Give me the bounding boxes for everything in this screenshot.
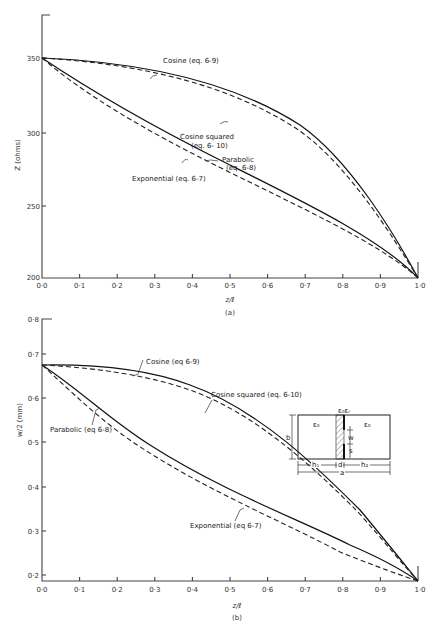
y-tick-label: 0·5: [28, 439, 39, 447]
label-cosine-a: Cosine (eq. 6-9): [163, 57, 219, 65]
label-parabolic-a-2: (eq. 6-8): [226, 164, 256, 172]
axes-b: [42, 319, 418, 581]
x-tick-label: 0·0: [36, 586, 47, 594]
x-tick-label: 0·8: [337, 282, 348, 290]
label-b: b: [286, 434, 291, 442]
label-eps-slab: ε₀εᵣ: [338, 407, 350, 415]
inset-cross-section: ε₀εᵣ ε₀ ε₀ b w s h₁ d h₂: [286, 407, 390, 477]
x-axis-title-a: z/ℓ: [225, 296, 235, 304]
label-s: s: [349, 447, 353, 455]
y-ticks-b: 0·8 0·7 0·6 0·5 0·4 0·3 0·2: [28, 316, 46, 580]
figure: 350 300 250 200 0·0 0·1 0·2 0·3 0·4 0·5 …: [0, 0, 432, 626]
dielectric-slab: [336, 415, 344, 459]
x-tick-label: 0·3: [149, 586, 160, 594]
label-cos-squared-a-1: Cosine squared: [180, 133, 234, 141]
y-tick-label: 0·8: [28, 316, 39, 324]
x-tick-label: 0·6: [262, 586, 274, 594]
caption-a: (a): [225, 309, 235, 317]
label-w: w: [348, 434, 354, 442]
chart-b: 0·8 0·7 0·6 0·5 0·4 0·3 0·2 0·0 0·1 0·2 …: [16, 316, 426, 622]
label-cos-squared-a-2: (eq. 6- 10): [191, 142, 228, 150]
caption-b: (b): [232, 614, 242, 622]
label-eps-left: ε₀: [313, 421, 320, 429]
leader-cos-squared-a: [220, 121, 228, 124]
x-tick-label: 1·0: [414, 586, 425, 594]
x-tick-label: 0·0: [36, 282, 47, 290]
label-d: d: [338, 461, 342, 469]
x-tick-label: 0·9: [375, 586, 386, 594]
x-tick-label: 0·9: [375, 282, 386, 290]
x-tick-label: 0·8: [337, 586, 348, 594]
x-axis-title-b: z/ℓ: [232, 602, 242, 610]
label-eps-right: ε₀: [364, 421, 371, 429]
leader-exponential-b: [235, 508, 244, 521]
label-cos-squared-b: Cosine squared (eq. 6-10): [211, 391, 302, 399]
x-tick-label: 0·7: [300, 586, 311, 594]
label-exponential-b: Exponential (eq 6-7): [190, 522, 262, 530]
y-tick-label: 0·2: [28, 572, 39, 580]
x-tick-label: 0·5: [224, 282, 235, 290]
y-tick-label: 300: [27, 130, 40, 138]
x-tick-label: 0·4: [187, 282, 199, 290]
x-tick-label: 0·6: [262, 282, 274, 290]
y-tick-label: 200: [27, 274, 40, 282]
leader-exponential-a: [182, 159, 188, 163]
label-h2: h₂: [361, 461, 368, 469]
y-tick-label: 250: [27, 203, 40, 211]
label-parabolic-a-1: Parabolic: [222, 156, 254, 164]
x-tick-label: 0·2: [112, 282, 123, 290]
y-axis-title-b: w/2 (mm): [16, 403, 24, 437]
chart-a: 350 300 250 200 0·0 0·1 0·2 0·3 0·4 0·5 …: [14, 15, 426, 317]
x-tick-label: 0·1: [74, 282, 85, 290]
y-ticks-a: 350 300 250 200: [27, 55, 46, 282]
x-tick-label: 0·7: [300, 282, 311, 290]
x-tick-label: 0·3: [149, 282, 160, 290]
axes-a: [42, 15, 418, 278]
label-h1: h₁: [312, 461, 319, 469]
y-tick-label: 0·3: [28, 528, 39, 536]
x-ticks-a: 0·0 0·1 0·2 0·3 0·4 0·5 0·6 0·7 0·8 0·9 …: [36, 274, 425, 290]
label-parabolic-b: Parabolic (eq 6-8): [50, 426, 112, 434]
leader-cosine-a: [150, 75, 157, 79]
x-tick-label: 0·1: [74, 586, 85, 594]
x-ticks-b: 0·0 0·1 0·2 0·3 0·4 0·5 0·6 0·7 0·8 0·9 …: [36, 577, 425, 594]
x-tick-label: 0·4: [187, 586, 199, 594]
label-cosine-b: Cosine (eq 6-9): [146, 358, 200, 366]
y-tick-label: 0·7: [28, 351, 39, 359]
label-a: a: [340, 469, 344, 477]
label-exponential-a: Exponential (eq. 6-7): [132, 175, 206, 183]
y-tick-label: 350: [27, 55, 40, 63]
leader-cosine-b: [133, 360, 143, 376]
x-tick-label: 1·0: [414, 282, 425, 290]
x-tick-label: 0·2: [112, 586, 123, 594]
y-tick-label: 0·6: [28, 395, 40, 403]
x-tick-label: 0·5: [224, 586, 235, 594]
y-tick-label: 0·4: [28, 484, 40, 492]
y-axis-title-a: Z (ohms): [14, 139, 22, 171]
leader-cos-squared-b: [205, 400, 212, 413]
